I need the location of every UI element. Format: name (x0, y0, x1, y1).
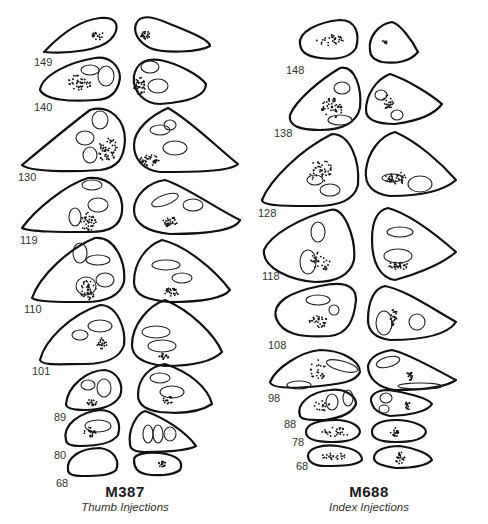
section-outline (40, 305, 124, 364)
section-outline (370, 22, 418, 63)
section-label: 88 (284, 419, 296, 430)
section-label: 119 (20, 235, 38, 246)
cluster-outline (172, 273, 192, 283)
section-label: 128 (258, 208, 276, 219)
section-outline (135, 17, 210, 51)
section-label: 130 (18, 172, 36, 183)
cluster-outline (86, 255, 110, 265)
section-outline (262, 134, 358, 206)
cluster-outline (83, 147, 97, 163)
cluster-outline (311, 222, 325, 242)
cluster-outline (409, 314, 425, 330)
cluster-outline (82, 180, 102, 190)
cluster-outline (164, 427, 176, 441)
section-outline (270, 350, 360, 388)
cluster-outline (380, 393, 392, 403)
cluster-outline (81, 65, 99, 75)
section-label: 149 (34, 57, 52, 68)
cluster-outline (69, 208, 81, 226)
section-label: 68 (296, 461, 308, 472)
section-outline (374, 446, 432, 468)
cluster-outline (408, 176, 432, 192)
cluster-outline (97, 379, 111, 397)
cluster-outline (88, 320, 112, 332)
cluster-outline (329, 305, 339, 315)
cluster-outline (334, 82, 350, 94)
cluster-outline (391, 110, 403, 120)
section-outline (32, 238, 124, 302)
section-label: 78 (292, 437, 304, 448)
section-outline (68, 448, 118, 476)
section-label: 108 (268, 340, 286, 351)
section-label: 89 (54, 412, 66, 423)
cluster-outline (76, 277, 96, 295)
cluster-outline (320, 184, 340, 196)
cluster-outline (306, 295, 330, 305)
cluster-outline (150, 373, 170, 383)
panel-title: M387 (65, 483, 185, 500)
cluster-outline (148, 79, 168, 93)
section-outline (134, 108, 238, 172)
section-outline (275, 284, 356, 337)
cluster-outline (148, 340, 176, 352)
section-label: 101 (32, 366, 50, 377)
section-outline (290, 68, 361, 130)
section-outline (372, 420, 426, 442)
cluster-outline (143, 425, 153, 443)
panel-subtitle: Thumb Injections (55, 501, 195, 513)
section-label: 148 (286, 65, 304, 76)
cluster-outline (88, 198, 108, 212)
cluster-outline (183, 199, 203, 211)
cluster-outline (81, 380, 95, 390)
cluster-outline (384, 249, 412, 263)
section-outline (134, 180, 240, 234)
section-label: 98 (268, 393, 280, 404)
panel-subtitle: Index Injections (299, 501, 439, 513)
section-label: 138 (274, 128, 292, 139)
section-outline (306, 420, 360, 442)
section-label: 118 (262, 271, 280, 282)
panel-title: M688 (309, 483, 429, 500)
section-outline (65, 410, 119, 446)
cluster-outline (163, 141, 187, 155)
section-outline (368, 286, 456, 340)
section-outline (44, 18, 117, 53)
section-outline (372, 208, 456, 280)
cluster-outline (375, 90, 387, 100)
cluster-outline (160, 386, 184, 398)
section-outline (134, 240, 230, 302)
cluster-outline (150, 125, 170, 135)
cluster-outline (85, 420, 111, 432)
cluster-outline (96, 273, 114, 287)
cluster-outline (375, 354, 401, 370)
cluster-outline (326, 394, 338, 410)
section-label: 80 (54, 450, 66, 461)
section-outline (308, 445, 362, 466)
cluster-outline (142, 326, 170, 338)
section-outline (138, 364, 212, 413)
section-outline (366, 132, 456, 196)
cluster-outline (98, 66, 114, 86)
section-label: 110 (24, 304, 42, 315)
cluster-outline (379, 405, 389, 413)
cluster-outline (152, 260, 180, 270)
cluster-outline (328, 115, 352, 125)
cluster-outline (376, 311, 392, 335)
cluster-outline (387, 227, 413, 237)
section-label: 140 (34, 102, 52, 113)
section-outline (300, 20, 358, 59)
section-outline (132, 300, 222, 366)
cluster-outline (76, 131, 94, 145)
cluster-outline (307, 175, 323, 185)
cluster-outline (153, 425, 163, 443)
section-outline (134, 453, 181, 475)
section-drawings (0, 0, 488, 524)
section-outline (22, 178, 122, 232)
cluster-outline (150, 191, 180, 210)
cluster-outline (92, 111, 108, 129)
cluster-outline (141, 61, 159, 73)
section-outline (368, 350, 456, 390)
cluster-outline (72, 330, 88, 340)
